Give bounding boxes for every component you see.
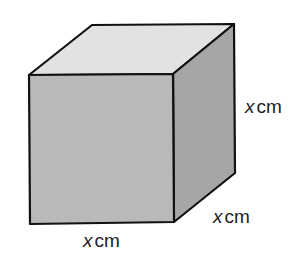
height-label: xcm [244, 96, 282, 117]
depth-label: xcm [212, 206, 250, 227]
cube-diagram: xcm xcm xcm [0, 0, 303, 258]
width-label: xcm [82, 230, 120, 251]
cube-front-face [29, 74, 174, 224]
